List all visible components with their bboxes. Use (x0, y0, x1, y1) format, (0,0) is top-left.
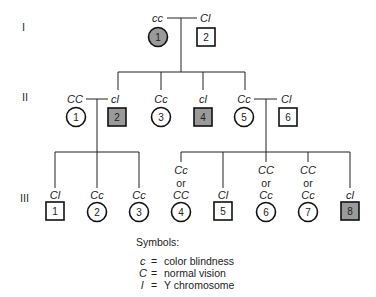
genotype-label: cɫ (111, 93, 120, 105)
individual-number: 7 (305, 207, 311, 218)
pedigree-chart: I II III cc 1 Cɫ 2 CC 1 cɫ 2 Cc (0, 0, 376, 297)
genotype-label: Cc (301, 189, 315, 201)
or-label: or (303, 177, 313, 189)
or-label: or (261, 177, 271, 189)
legend-equals: = (151, 279, 157, 291)
generation-label-i: I (22, 21, 25, 33)
legend-meaning: color blindness (164, 255, 234, 267)
individual-number: 3 (158, 112, 164, 123)
legend-meaning: normal vision (164, 267, 226, 279)
legend-symbol: c (140, 255, 146, 267)
legend: Symbols: c = color blindness C = normal … (136, 236, 235, 291)
genotype-label-alt: CC (258, 164, 274, 176)
individual-number: 1 (155, 32, 161, 43)
legend-title: Symbols: (136, 236, 179, 248)
legend-equals: = (151, 267, 157, 279)
generation-i: cc 1 Cɫ 2 (118, 12, 245, 90)
genotype-label: cɫ (346, 189, 355, 201)
genotype-label-alt: Cc (174, 164, 188, 176)
genotype-label-alt: CC (300, 164, 316, 176)
individual-number: 8 (347, 206, 353, 217)
individual-number: 2 (94, 207, 100, 218)
genotype-label: Cc (154, 93, 168, 105)
genotype-label: Cc (132, 189, 146, 201)
generation-iii: Cɫ 1 Cc 2 Cc 3 Cc or CC 4 Cɫ 5 CC or Cc … (46, 152, 359, 222)
legend-symbol: ɫ (141, 279, 144, 291)
genotype-label: Cc (90, 189, 104, 201)
individual-number: 5 (220, 206, 226, 217)
individual-number: 1 (73, 112, 79, 123)
genotype-label: Cɫ (218, 189, 229, 201)
genotype-label: cc (152, 12, 164, 24)
genotype-label: Cɫ (281, 93, 292, 105)
individual-number: 4 (200, 112, 206, 123)
individual-number: 1 (52, 206, 58, 217)
generation-label-iii: III (20, 192, 29, 204)
generation-ii: CC 1 cɫ 2 Cc 3 cɫ 4 Cc 5 Cɫ 6 (67, 93, 298, 152)
individual-number: 2 (114, 112, 120, 123)
legend-symbol: C (139, 267, 147, 279)
genotype-label: Cc (237, 93, 251, 105)
genotype-label: cɫ (199, 93, 208, 105)
individual-number: 5 (241, 112, 247, 123)
individual-number: 6 (285, 112, 291, 123)
genotype-label: Cc (259, 189, 273, 201)
individual-number: 3 (136, 207, 142, 218)
legend-meaning: Y chromosome (164, 279, 235, 291)
genotype-label: Cɫ (200, 12, 211, 24)
individual-number: 4 (178, 207, 184, 218)
genotype-label: Cɫ (50, 189, 61, 201)
generation-label-ii: II (22, 91, 28, 103)
genotype-label: CC (67, 93, 83, 105)
individual-number: 6 (263, 207, 269, 218)
genotype-label: CC (173, 189, 189, 201)
individual-number: 2 (203, 32, 209, 43)
or-label: or (176, 177, 186, 189)
legend-equals: = (151, 255, 157, 267)
